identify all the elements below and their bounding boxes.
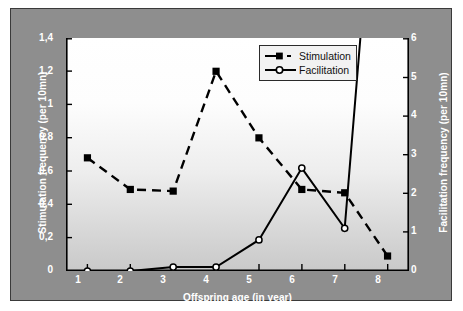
x-tick-1: 1 — [63, 274, 93, 285]
x-tick-8: 8 — [363, 274, 393, 285]
chart-legend: Stimulation Facilitation — [259, 45, 357, 81]
x-tick-3: 3 — [148, 274, 178, 285]
facilitation-markers — [84, 165, 347, 271]
facilitation-point — [342, 225, 348, 231]
facilitation-point — [127, 268, 133, 271]
facilitation-point — [84, 268, 90, 271]
stimulation-point — [212, 68, 219, 75]
stimulation-point — [341, 189, 348, 196]
chart-plate: 1,4 1,2 1 0,8 0,6 0,4 0,2 0 6 5 4 3 2 1 … — [10, 8, 452, 301]
x-axis-title: Offspring age (in year) — [66, 292, 409, 303]
stimulation-point — [84, 154, 91, 161]
x-tick-2: 2 — [105, 274, 135, 285]
chart-figure: 1,4 1,2 1 0,8 0,6 0,4 0,2 0 6 5 4 3 2 1 … — [0, 0, 463, 311]
x-tick-4: 4 — [191, 274, 221, 285]
stimulation-point — [127, 186, 134, 193]
y-axis-right-title: Facilitation frequency (per 10mn) — [438, 43, 449, 263]
legend-item-stimulation: Stimulation — [264, 49, 351, 63]
legend-label-stimulation: Stimulation — [299, 50, 351, 62]
x-tick-6: 6 — [277, 274, 307, 285]
plot-area — [66, 38, 409, 271]
y-left-tick-0: 0 — [19, 264, 53, 275]
y-right-tick-6: 6 — [411, 32, 445, 43]
facilitation-point — [213, 264, 219, 270]
y-left-tick-1_4: 1,4 — [19, 32, 53, 43]
plot-svg — [66, 38, 409, 271]
y-axis-left-title: Stimulation frequency (per 10mn) — [37, 43, 48, 263]
facilitation-point — [299, 165, 305, 171]
x-tick-7: 7 — [320, 274, 350, 285]
stimulation-point — [255, 134, 262, 141]
filled-square-marker-icon — [264, 50, 298, 62]
y-right-tick-0: 0 — [411, 264, 445, 275]
open-circle-marker-icon — [264, 64, 298, 76]
facilitation-point — [256, 237, 262, 243]
facilitation-point — [170, 264, 176, 270]
legend-label-facilitation: Facilitation — [299, 64, 349, 76]
x-tick-5: 5 — [234, 274, 264, 285]
legend-item-facilitation: Facilitation — [264, 63, 351, 77]
stimulation-point — [298, 186, 305, 193]
stimulation-point — [170, 188, 177, 195]
stimulation-point — [384, 252, 391, 259]
